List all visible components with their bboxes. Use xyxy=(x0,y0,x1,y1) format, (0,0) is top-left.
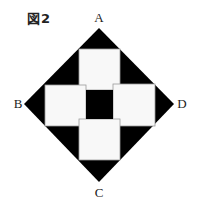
white-square-bottom xyxy=(79,119,120,160)
vertex-label-c: C xyxy=(92,186,106,200)
vertex-label-b: B xyxy=(11,97,25,111)
vertex-label-d: D xyxy=(175,97,189,111)
vertex-label-a: A xyxy=(92,11,106,25)
figure-title: 図2 xyxy=(27,11,51,27)
figure-2: 図2 A B C D xyxy=(0,0,197,207)
center-black-square xyxy=(86,90,113,119)
diamond-diagram xyxy=(0,0,197,207)
